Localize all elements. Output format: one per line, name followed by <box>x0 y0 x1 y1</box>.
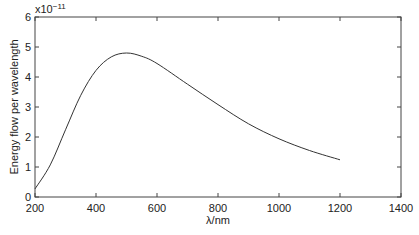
y-axis-label: Energy flow per wavelength <box>8 39 20 174</box>
axes-box <box>35 17 401 197</box>
series-line <box>35 53 340 189</box>
energy-flow-chart: 2004006008001000120014000123456 x10−11 λ… <box>0 0 419 235</box>
y-tick-label: 5 <box>25 41 31 53</box>
y-tick-label: 0 <box>25 191 31 203</box>
x-tick-label: 600 <box>148 202 166 214</box>
y-tick-label: 3 <box>25 101 31 113</box>
x-tick-label: 800 <box>209 202 227 214</box>
y-tick-label: 1 <box>25 161 31 173</box>
x-tick-label: 1000 <box>267 202 291 214</box>
x-tick-label: 1400 <box>389 202 413 214</box>
x-axis-label: λ/nm <box>206 214 230 226</box>
plot-frame <box>35 17 401 197</box>
y-tick-label: 6 <box>25 11 31 23</box>
data-series <box>35 53 340 189</box>
x-tick-label: 200 <box>26 202 44 214</box>
y-exponent-label: x10−11 <box>35 2 66 15</box>
x-tick-label: 1200 <box>328 202 352 214</box>
axis-ticks: 2004006008001000120014000123456 <box>25 11 413 214</box>
x-tick-label: 400 <box>87 202 105 214</box>
y-tick-label: 2 <box>25 131 31 143</box>
y-tick-label: 4 <box>25 71 31 83</box>
